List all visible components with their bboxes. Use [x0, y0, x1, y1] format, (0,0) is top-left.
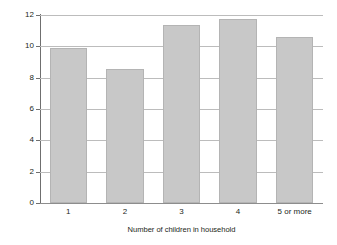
bar-5-or-more — [276, 37, 313, 203]
y-axis-tick-mark — [36, 203, 40, 204]
y-axis-tick-label: 8 — [8, 74, 34, 82]
x-axis-tick-label: 3 — [153, 206, 210, 218]
y-axis-tick-label: 6 — [8, 105, 34, 113]
x-axis-tick-label: 4 — [210, 206, 267, 218]
plot-area — [40, 15, 323, 203]
x-axis-tick-label: 1 — [40, 206, 97, 218]
gridline — [40, 15, 323, 16]
x-axis-tick-label: 5 or more — [266, 206, 323, 218]
x-axis-title: Number of children in household — [40, 224, 323, 236]
y-axis-tick-label: 10 — [8, 42, 34, 50]
y-axis-tick-mark — [36, 46, 40, 47]
bar-2 — [106, 69, 143, 203]
gridline — [40, 203, 323, 204]
bar-1 — [50, 48, 87, 203]
y-axis-tick-label: 4 — [8, 136, 34, 144]
y-axis-tick-mark — [36, 140, 40, 141]
bar-chart: Percentage of children with a mental dis… — [0, 0, 337, 245]
y-axis-tick-labels: 024681012 — [0, 0, 34, 245]
x-axis-tick-label: 2 — [97, 206, 154, 218]
bar-3 — [163, 25, 200, 203]
y-axis-tick-label: 0 — [8, 199, 34, 207]
y-axis-tick-label: 2 — [8, 168, 34, 176]
y-axis-tick-mark — [36, 172, 40, 173]
y-axis-tick-mark — [36, 78, 40, 79]
y-axis-tick-label: 12 — [8, 11, 34, 19]
x-axis-tick-labels: 12345 or more — [40, 206, 323, 220]
y-axis-tick-mark — [36, 15, 40, 16]
bar-4 — [219, 19, 256, 203]
y-axis-tick-mark — [36, 109, 40, 110]
